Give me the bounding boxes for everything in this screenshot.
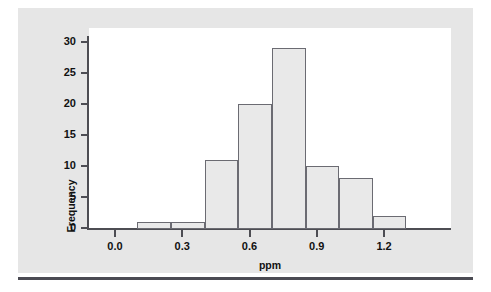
x-axis-tick [114, 230, 116, 237]
y-axis-tick-label-wrap: 30 [48, 35, 76, 47]
y-axis-tick-label: 20 [48, 97, 76, 109]
histogram-bar [205, 160, 239, 229]
y-axis-tick [81, 72, 87, 74]
histogram-bar [339, 178, 373, 229]
y-axis-title: Frequency [65, 166, 77, 246]
histogram-figure: 051015202530 0.00.30.60.91.2 Frequency p… [0, 0, 491, 292]
histogram-bar [137, 222, 171, 229]
x-axis-tick-label: 0.0 [95, 240, 135, 252]
histogram-bar [373, 216, 407, 229]
x-axis-tick-label: 0.9 [297, 240, 337, 252]
x-axis-tick [316, 230, 318, 237]
y-axis-tick-label: 25 [48, 66, 76, 78]
y-axis-tick-label-wrap: 25 [48, 66, 76, 78]
x-axis-tick-label: 0.6 [230, 240, 270, 252]
x-axis-tick-label: 1.2 [364, 240, 404, 252]
y-axis-line [87, 36, 89, 230]
y-axis-tick [81, 196, 87, 198]
y-axis-tick [81, 41, 87, 43]
y-axis-tick-label-wrap: 15 [48, 128, 76, 140]
y-axis-title-holder: Frequency [34, 95, 48, 175]
y-axis-tick [81, 165, 87, 167]
histogram-bar [272, 48, 306, 229]
x-axis-tick [383, 230, 385, 237]
y-axis-tick-label: 30 [48, 35, 76, 47]
bottom-rule [18, 277, 473, 280]
x-axis-title: ppm [89, 259, 451, 271]
y-axis-tick [81, 134, 87, 136]
y-axis-tick-label-wrap: 20 [48, 97, 76, 109]
histogram-bar [238, 104, 272, 229]
histogram-bar [306, 166, 340, 229]
histogram-bar [171, 222, 205, 229]
x-axis-tick [181, 230, 183, 237]
x-axis-tick-label: 0.3 [162, 240, 202, 252]
x-axis-tick [249, 230, 251, 237]
y-axis-tick-label: 15 [48, 128, 76, 140]
y-axis-tick [81, 227, 87, 229]
y-axis-tick [81, 103, 87, 105]
